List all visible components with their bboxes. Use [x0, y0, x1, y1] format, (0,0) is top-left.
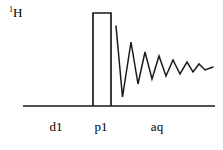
nucleus-element-symbol: H: [13, 5, 22, 20]
segment-label-d1: d1: [41, 120, 71, 133]
pulse-sequence-diagram: 1H d1 p1 aq: [0, 0, 223, 150]
pulse-block-p1: [93, 13, 111, 106]
segment-label-p1: p1: [87, 120, 115, 133]
segment-label-aq: aq: [142, 120, 172, 133]
fid-signal-aq: [116, 26, 213, 97]
nucleus-channel-label: 1H: [9, 6, 22, 19]
